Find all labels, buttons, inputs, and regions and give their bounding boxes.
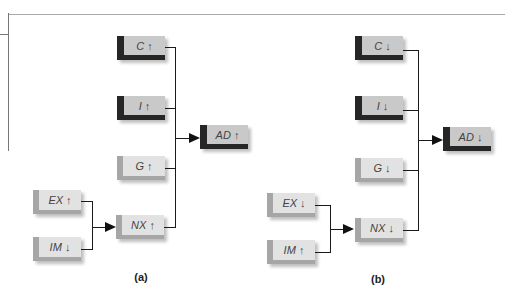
box-net-exports: NX ↑ xyxy=(116,215,164,239)
connector-trade-bus xyxy=(92,201,93,250)
box-government: G ↓ xyxy=(355,158,403,182)
connector-ex xyxy=(81,201,92,202)
box-label: IM ↑ xyxy=(284,244,305,256)
connector-to-nx xyxy=(330,229,344,230)
box-label: AD ↓ xyxy=(459,131,483,143)
box-label: C ↓ xyxy=(374,40,391,52)
box-label: G ↓ xyxy=(373,162,390,174)
box-label: I ↓ xyxy=(377,100,389,112)
connector-ex xyxy=(315,205,330,206)
box-consumption: C ↑ xyxy=(117,36,165,60)
box-label: EX ↓ xyxy=(282,197,305,209)
connector-g xyxy=(403,170,418,171)
box-investment: I ↓ xyxy=(355,96,403,120)
box-imports: IM ↓ xyxy=(33,237,81,261)
arrowhead-icon xyxy=(343,224,354,234)
box-government: G ↑ xyxy=(117,156,165,180)
box-imports: IM ↑ xyxy=(267,240,315,264)
box-investment: I ↑ xyxy=(117,96,165,120)
arrowhead-icon xyxy=(432,135,443,145)
box-label: NX ↓ xyxy=(370,222,394,234)
box-label: IM ↓ xyxy=(50,241,71,253)
box-aggregate-demand: AD ↑ xyxy=(200,125,248,149)
box-label: EX ↑ xyxy=(48,194,71,206)
page-left-rule xyxy=(8,13,9,151)
arrowhead-icon xyxy=(189,133,200,143)
connector-im xyxy=(315,252,330,253)
box-exports: EX ↓ xyxy=(267,193,315,217)
box-label: I ↑ xyxy=(139,100,151,112)
box-label: G ↑ xyxy=(135,160,152,172)
box-net-exports: NX ↓ xyxy=(355,218,403,242)
connector-c xyxy=(403,50,418,51)
box-exports: EX ↑ xyxy=(33,190,81,214)
box-label: NX ↑ xyxy=(131,219,155,231)
box-label: C ↑ xyxy=(136,40,153,52)
box-label: AD ↑ xyxy=(216,129,240,141)
panel-label-a: (a) xyxy=(134,271,147,283)
box-consumption: C ↓ xyxy=(355,36,403,60)
connector-to-ad xyxy=(418,140,433,141)
connector-to-ad xyxy=(175,138,190,139)
connector-i xyxy=(403,110,418,111)
page-margin-tick xyxy=(0,34,8,35)
connector-nx xyxy=(403,230,418,231)
box-aggregate-demand: AD ↓ xyxy=(443,127,491,151)
arrowhead-icon xyxy=(105,222,116,232)
connector-im xyxy=(81,249,92,250)
page-top-rule xyxy=(8,14,505,15)
panel-label-b: (b) xyxy=(371,273,385,285)
connector-to-nx xyxy=(92,227,106,228)
